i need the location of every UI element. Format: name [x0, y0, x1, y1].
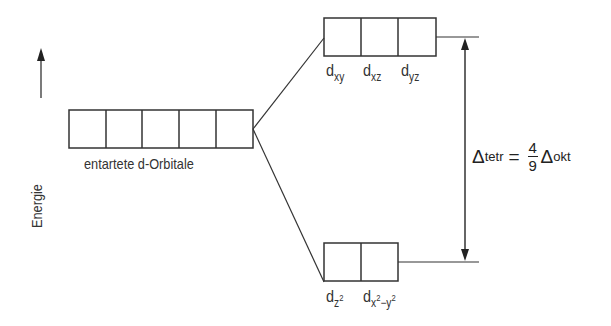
upper-orbital-boxes: [324, 18, 436, 56]
delta-okt-subscript: okt: [553, 149, 570, 164]
orbital-label-dz2: dz2: [326, 287, 343, 310]
energy-axis-arrow: [37, 48, 45, 98]
delta-tetr-subscript: tetr: [485, 149, 504, 164]
energy-axis-label: Energie: [28, 184, 45, 228]
splitting-double-arrow: [461, 38, 469, 261]
orbital-label-dxz: dxz: [363, 61, 381, 84]
fraction-numerator: 4: [528, 140, 536, 155]
orbital-label-dyz: dyz: [401, 61, 419, 84]
fraction-denominator: 9: [528, 158, 536, 173]
orbital-label-dxy: dxy: [326, 61, 344, 84]
lower-orbital-boxes: [324, 243, 398, 281]
splitting-formula: Δtetr = 4 9 Δokt: [472, 140, 571, 173]
equals-sign: =: [509, 146, 520, 168]
orbital-label-dx2-y2: dx2−y2: [363, 287, 396, 310]
fraction: 4 9: [528, 140, 538, 173]
delta-symbol-okt: Δ: [541, 146, 554, 168]
delta-symbol: Δ: [472, 146, 485, 168]
splitting-connectors: [253, 38, 324, 282]
degenerate-orbitals-label: entartete d-Orbitale: [84, 155, 194, 172]
degenerate-orbital-boxes: [69, 110, 253, 148]
